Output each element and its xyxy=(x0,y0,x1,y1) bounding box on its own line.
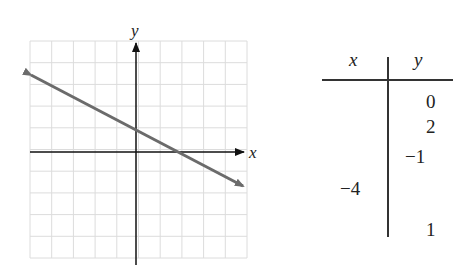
x-axis-label: x xyxy=(248,143,257,162)
table-cell-y: −1 xyxy=(405,147,425,166)
table-column-divider xyxy=(387,57,389,237)
table-cell-y: 2 xyxy=(426,117,436,136)
table-cell-x: −4 xyxy=(340,179,360,198)
table-header-y: y xyxy=(414,50,422,69)
grid xyxy=(30,41,247,258)
y-axis-label: y xyxy=(129,21,139,40)
coordinate-graph: x y xyxy=(0,0,270,278)
table-header-x: x xyxy=(349,50,357,69)
table-cell-y: 1 xyxy=(426,220,436,239)
graphed-line xyxy=(31,75,243,186)
table-cell-y: 0 xyxy=(426,92,436,111)
